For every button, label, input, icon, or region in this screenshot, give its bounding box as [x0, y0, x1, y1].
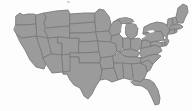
- state-MN[interactable]: Minnesota: [95, 9, 111, 32]
- state-SD[interactable]: South Dakota: [70, 22, 96, 33]
- united-states-map[interactable]: Washington Oregon California Idaho Nevad…: [0, 0, 192, 111]
- us-map-figure: Washington Oregon California Idaho Nevad…: [0, 0, 192, 111]
- state-AL[interactable]: Alabama: [123, 63, 133, 80]
- state-IN[interactable]: Indiana: [123, 38, 131, 50]
- state-ME[interactable]: Maine: [176, 4, 188, 23]
- state-MI-lower[interactable]: Michigan: [125, 23, 138, 39]
- state-KS[interactable]: Kansas: [79, 41, 99, 53]
- compression-artifact: [67, 1, 70, 3]
- state-MT[interactable]: Montana: [44, 10, 70, 28]
- state-AZ[interactable]: Arizona: [43, 54, 63, 73]
- state-AR[interactable]: Arkansas: [100, 56, 114, 69]
- state-FL[interactable]: Florida: [131, 79, 160, 105]
- state-WY[interactable]: Wyoming: [45, 26, 70, 38]
- state-RI[interactable]: Rhode Island: [175, 29, 177, 33]
- state-NJ[interactable]: New Jersey: [164, 38, 169, 46]
- state-WA[interactable]: Washington: [16, 13, 36, 25]
- state-outlines: Washington Oregon California Idaho Nevad…: [14, 4, 188, 105]
